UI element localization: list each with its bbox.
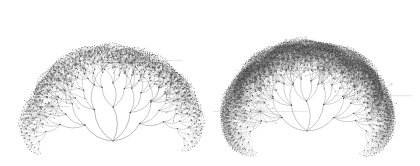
tree-node — [248, 105, 249, 106]
tree-node — [263, 92, 264, 93]
tree-node — [262, 81, 263, 82]
tree-node — [280, 58, 281, 59]
tree-node — [356, 81, 357, 82]
tree-node — [376, 116, 377, 117]
tree-node — [288, 52, 289, 53]
tree-node — [260, 67, 261, 68]
tree-node — [25, 128, 26, 129]
tree-node — [107, 60, 108, 61]
tree-node — [292, 63, 293, 64]
tree-node — [390, 98, 391, 99]
tree-node — [338, 47, 339, 48]
tree-node — [289, 39, 290, 40]
tree-node — [254, 60, 255, 61]
tree-node — [146, 64, 147, 65]
tree-node — [229, 95, 230, 96]
tree-node — [290, 62, 291, 63]
tree-node — [330, 61, 331, 62]
tree-node — [138, 55, 139, 56]
tree-node — [358, 68, 359, 69]
tree-edge — [94, 70, 102, 85]
tree-node — [333, 44, 334, 45]
tree-node — [313, 53, 314, 54]
tree-node — [244, 85, 245, 86]
tree-node — [272, 108, 273, 109]
tree-node — [176, 75, 177, 76]
tree-node — [388, 105, 389, 106]
tree-node — [376, 70, 377, 71]
tree-node — [385, 98, 386, 99]
tree-node — [53, 65, 54, 66]
tree-node — [264, 54, 265, 55]
tree-node — [351, 72, 352, 73]
tree-node — [255, 89, 256, 90]
tree-node — [192, 97, 193, 98]
tree-node — [235, 87, 236, 88]
tree-node — [223, 119, 224, 120]
tree-node — [24, 123, 25, 124]
tree-node — [389, 98, 390, 99]
tree-node — [71, 81, 72, 82]
tree-edge — [368, 151, 371, 156]
tree-node — [28, 122, 29, 123]
tree-node — [139, 53, 140, 54]
tree-node — [358, 59, 359, 60]
tree-node — [367, 90, 368, 91]
tree-node — [356, 60, 357, 61]
tree-node — [82, 51, 83, 52]
tree-node — [92, 48, 93, 49]
tree-node — [392, 114, 393, 115]
tree-node — [244, 148, 245, 149]
tree-node — [384, 114, 385, 115]
tree-node — [40, 153, 41, 154]
tree-node — [24, 114, 25, 115]
tree-node — [258, 101, 259, 102]
tree-node — [261, 57, 262, 58]
tree-node — [310, 82, 311, 83]
tree-node — [245, 64, 246, 65]
tree-node — [244, 81, 245, 82]
tree-node — [68, 73, 69, 74]
tree-node — [264, 78, 265, 79]
tree-node — [386, 140, 387, 141]
tree-node — [331, 59, 332, 60]
tree-node — [244, 112, 245, 113]
tree-node — [225, 117, 226, 118]
tree-node — [299, 52, 300, 53]
tree-node — [64, 77, 65, 78]
tree-node — [394, 108, 395, 109]
tree-node — [259, 77, 260, 78]
tree-node — [319, 47, 320, 48]
tree-node — [340, 49, 341, 50]
tree-node — [237, 145, 238, 146]
tree-node — [318, 75, 319, 76]
tree-node — [136, 57, 137, 58]
tree-node — [64, 61, 65, 62]
tree-node — [378, 111, 379, 112]
tree-node — [75, 54, 76, 55]
tree-node — [244, 67, 245, 68]
tree-node — [245, 114, 246, 115]
tree-node — [380, 95, 381, 96]
tree-node — [182, 83, 183, 84]
tree-node — [69, 62, 70, 63]
tree-node — [283, 45, 284, 46]
tree-node — [240, 88, 241, 89]
tree-node — [153, 68, 154, 69]
tree-node — [223, 114, 224, 115]
tree-node — [374, 85, 375, 86]
tree-node — [385, 108, 386, 109]
tree-node — [364, 88, 365, 89]
tree-node — [287, 44, 288, 45]
tree-node — [350, 49, 351, 50]
tree-node — [246, 148, 247, 149]
tree-node — [122, 55, 123, 56]
tree-node — [105, 44, 106, 45]
tree-node — [106, 50, 107, 51]
tree-node — [340, 59, 341, 60]
tree-node — [111, 48, 112, 49]
tree-node — [311, 45, 312, 46]
tree-node — [383, 79, 384, 80]
tree-node — [360, 57, 361, 58]
tree-node — [64, 90, 65, 91]
